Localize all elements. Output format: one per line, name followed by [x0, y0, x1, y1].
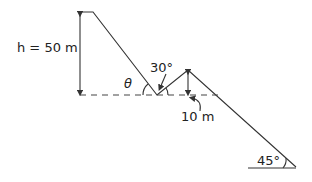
theta-arc	[143, 84, 148, 95]
angle-30-label: 30°	[150, 60, 173, 75]
angle-45-label: 45°	[257, 153, 280, 168]
angle-30-pointer	[160, 74, 166, 88]
angle-30-arc	[166, 88, 168, 95]
ski-jump-diagram: h = 50 m θ 30° 10 m 45°	[0, 0, 312, 182]
drop-label: 10 m	[181, 109, 214, 124]
theta-label: θ	[124, 76, 132, 91]
height-label: h = 50 m	[17, 40, 78, 55]
angle-45-arc	[283, 158, 286, 168]
